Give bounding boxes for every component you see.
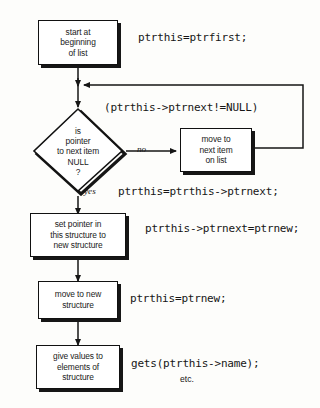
node-start-line-3: of list <box>69 48 88 59</box>
node-move-new-line-2: structure <box>62 300 94 311</box>
node-start-line-1: start at <box>66 27 91 38</box>
node-give-values-line-1: give values to <box>53 351 103 362</box>
node-move-new-structure[interactable]: move to new structure <box>38 281 118 319</box>
node-move-next-line-2: next item <box>199 145 232 156</box>
node-move-next-line-3: on list <box>205 155 226 166</box>
node-give-values-line-3: structure <box>62 372 94 383</box>
node-give-values-line-2: elements of <box>57 362 99 373</box>
node-set-pointer-line-3: new structure <box>54 240 103 251</box>
node-decision[interactable]: is pointer to next item NULL ? <box>28 107 128 196</box>
branch-label-no: no <box>137 144 146 154</box>
node-start-line-2: beginning <box>60 37 95 48</box>
code-annotation-etc: etc. <box>180 374 194 384</box>
code-annotation-start: ptrthis=ptrfirst; <box>138 31 247 44</box>
decision-shape <box>28 107 128 196</box>
code-annotation-set-pointer: ptrthis->ptrnext=ptrnew; <box>145 222 299 235</box>
flowchart-diagram: start at beginning of list is pointer to… <box>0 0 320 408</box>
node-move-next-item[interactable]: move to next item on list <box>180 128 252 172</box>
node-start[interactable]: start at beginning of list <box>38 20 118 65</box>
node-set-pointer-line-2: this structure to <box>50 230 106 241</box>
code-annotation-move-next: ptrthis=ptrthis->ptrnext; <box>118 185 279 198</box>
node-move-new-line-1: move to new <box>55 289 101 300</box>
code-annotation-gets: gets(ptrthis->name); <box>131 357 259 370</box>
code-annotation-move-new: ptrthis=ptrnew; <box>130 292 226 305</box>
node-set-pointer-line-1: set pointer in <box>55 219 102 230</box>
node-give-values[interactable]: give values to elements of structure <box>36 345 120 389</box>
node-move-next-line-1: move to <box>201 134 230 145</box>
node-set-pointer[interactable]: set pointer in this structure to new str… <box>30 213 126 257</box>
